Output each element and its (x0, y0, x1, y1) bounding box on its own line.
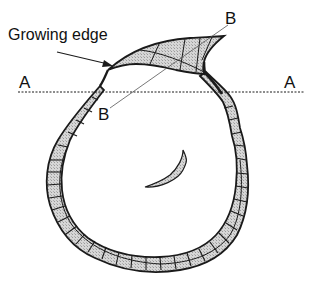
section-a-right-label: A (284, 74, 295, 91)
crescent-mark (145, 150, 186, 187)
shell-band (47, 72, 248, 272)
section-a-left-label: A (19, 74, 30, 91)
growing-edge-arrow (57, 52, 113, 67)
shell-diagram: Growing edge A A B B (0, 0, 312, 286)
section-b-bottom-label: B (98, 106, 109, 123)
section-line-b (110, 25, 228, 108)
growing-edge-label: Growing edge (8, 27, 108, 43)
section-b-top-label: B (225, 10, 236, 27)
